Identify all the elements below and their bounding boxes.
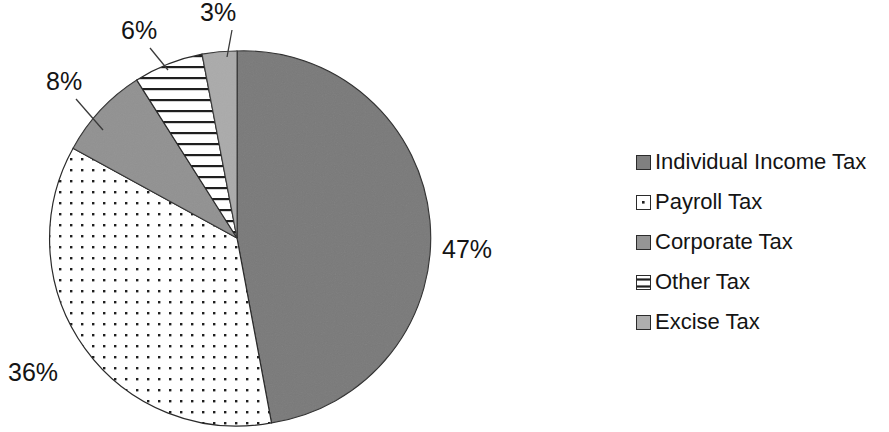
legend-item-individual-income-tax: Individual Income Tax [636, 142, 886, 182]
legend-item-payroll-tax: Payroll Tax [636, 182, 886, 222]
legend-label-payroll-tax: Payroll Tax [655, 191, 762, 213]
pie-slice-individual-income-tax [237, 51, 431, 423]
legend-swatch-payroll-tax [636, 195, 651, 210]
legend-label-excise-tax: Excise Tax [655, 311, 760, 333]
pie-label-corporate-tax: 8% [46, 67, 82, 96]
pie-chart-figure: 47% 36% 8% 6% 3% Individual Income Tax P… [0, 0, 889, 432]
pie-label-individual-income-tax: 47% [442, 235, 492, 264]
legend-item-excise-tax: Excise Tax [636, 302, 886, 342]
pie-label-payroll-tax: 36% [8, 358, 58, 387]
legend-swatch-corporate-tax [636, 235, 651, 250]
legend-swatch-other-tax [636, 275, 651, 290]
chart-legend: Individual Income Tax Payroll Tax Corpor… [636, 142, 886, 342]
legend-label-individual-income-tax: Individual Income Tax [655, 151, 866, 173]
pie-label-other-tax: 6% [121, 16, 157, 45]
legend-item-other-tax: Other Tax [636, 262, 886, 302]
legend-label-corporate-tax: Corporate Tax [655, 231, 793, 253]
legend-label-other-tax: Other Tax [655, 271, 750, 293]
legend-item-corporate-tax: Corporate Tax [636, 222, 886, 262]
legend-swatch-individual-income-tax [636, 155, 651, 170]
leader-line-other-tax [150, 48, 168, 70]
legend-swatch-excise-tax [636, 315, 651, 330]
pie-label-excise-tax: 3% [200, 0, 236, 27]
